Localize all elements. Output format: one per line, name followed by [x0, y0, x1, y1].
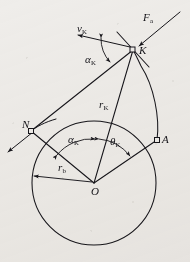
alpha-lower-label: αK: [68, 134, 79, 146]
generating-line-NK: [31, 50, 133, 131]
point-marker-K: [130, 47, 135, 52]
point-label-K: K: [139, 45, 146, 56]
force-label: Fa: [143, 12, 153, 24]
velocity-label: vK: [77, 23, 87, 35]
alpha-upper-label: αK: [85, 54, 96, 66]
rk-label: rK: [99, 99, 108, 111]
involute-geometry-figure: [0, 0, 190, 262]
rb-arrow: [34, 176, 92, 182]
radius-ON: [31, 131, 94, 183]
point-label-O: O: [91, 186, 99, 197]
radius-OA: [94, 140, 157, 183]
generating-line-extension: [8, 132, 33, 152]
point-label-N: N: [22, 119, 29, 130]
theta-label: θK: [110, 136, 121, 148]
point-label-A: A: [162, 134, 169, 145]
rb-label: rb: [58, 162, 66, 174]
point-marker-A: [155, 138, 160, 143]
radius-OK: [94, 50, 133, 183]
velocity-arrow: [78, 35, 130, 47]
